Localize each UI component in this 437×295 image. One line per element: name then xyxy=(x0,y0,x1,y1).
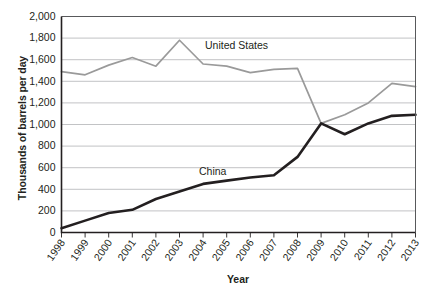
y-tick-label: 400 xyxy=(38,183,56,195)
x-tick-label: 2001 xyxy=(115,237,138,263)
y-tick-label: 2,000 xyxy=(29,10,55,22)
x-tick-label: 2010 xyxy=(327,237,350,263)
x-tick-label: 2012 xyxy=(374,237,397,263)
x-tick-label: 2004 xyxy=(186,237,209,263)
y-tick-label: 800 xyxy=(38,139,56,151)
y-axis-tick-labels: 02004006008001,0001,2001,4001,6001,8002,… xyxy=(29,10,55,238)
x-tick-label: 2006 xyxy=(233,237,256,263)
x-tick-label: 2000 xyxy=(91,237,114,263)
x-tick-label: 2007 xyxy=(256,237,279,263)
series-annotation-united-states: United States xyxy=(205,39,268,51)
x-tick-label: 2003 xyxy=(162,237,185,263)
x-tick-label: 1999 xyxy=(68,237,91,263)
y-tick-label: 200 xyxy=(38,204,56,216)
y-tick-label: 1,400 xyxy=(29,75,55,87)
data-series-group xyxy=(62,40,416,228)
y-tick-label: 1,000 xyxy=(29,118,55,130)
x-tick-label: 2008 xyxy=(280,237,303,263)
y-tick-label: 1,800 xyxy=(29,31,55,43)
y-tick-label: 1,600 xyxy=(29,53,55,65)
line-chart-plot: 02004006008001,0001,2001,4001,6001,8002,… xyxy=(0,0,437,295)
x-axis-tick-labels: 1998199920002001200220032004200520062007… xyxy=(44,237,421,263)
series-annotation-china: China xyxy=(199,165,227,177)
y-tick-label: 1,200 xyxy=(29,96,55,108)
chart-figure: Thousands of barrels per day Year 020040… xyxy=(0,0,437,295)
x-tick-label: 2009 xyxy=(304,237,327,263)
x-tick-label: 2011 xyxy=(351,237,374,263)
x-tick-label: 1998 xyxy=(44,237,67,263)
y-tick-label: 0 xyxy=(50,226,56,238)
series-line-united-states xyxy=(62,40,416,123)
y-tick-label: 600 xyxy=(38,161,56,173)
x-tick-label: 2002 xyxy=(138,237,161,263)
x-tick-label: 2013 xyxy=(398,237,421,263)
x-tick-label: 2005 xyxy=(209,237,232,263)
